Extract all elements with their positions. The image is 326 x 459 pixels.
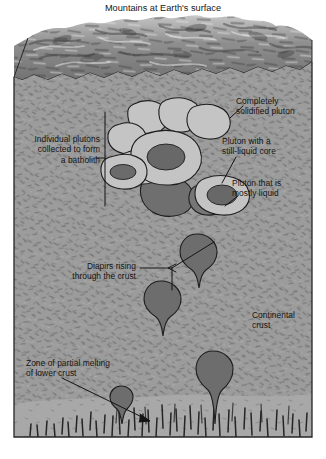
pluton-core-1 [147,144,185,170]
pluton-core-3 [110,165,136,180]
label-partial-melting: Zone of partial melting of lower crust [26,358,158,379]
label-continental-crust: Continental crust [252,310,322,331]
label-diapirs: Diapirs rising through the crust [30,261,136,282]
partial-melting-zone [14,394,312,437]
pluton-solidified-3 [187,104,230,139]
label-batholith: Individual plutons collected to form a b… [24,134,100,165]
geologic-cross-section-figure: Mountains at Earth's surface [0,0,326,459]
pluton-liquid-core-3 [101,154,147,189]
figure-title: Mountains at Earth's surface [0,3,326,13]
cross-section-drawing [0,0,326,459]
label-mostly-liquid-pluton: Pluton that is mostly liquid [232,178,324,199]
label-liquid-core-pluton: Pluton with a still-liquid core [222,136,322,157]
label-solidified-pluton: Completely solidified pluton [236,96,324,117]
